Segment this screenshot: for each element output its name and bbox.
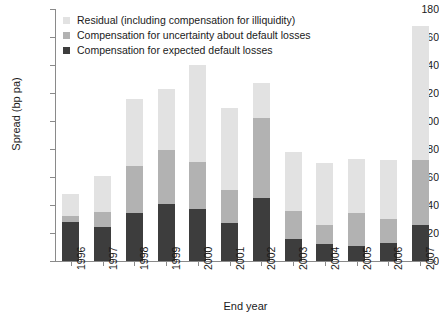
- x-axis-label: 2005: [362, 247, 373, 270]
- bar-segment: [253, 118, 270, 198]
- x-axis-label: 2000: [203, 247, 214, 270]
- bar-2007: [412, 9, 429, 261]
- x-axis-label: 2003: [298, 247, 309, 270]
- bar-2003: [285, 9, 302, 261]
- y-axis-title: Spread (bp pa): [10, 54, 22, 174]
- x-axis-tick: [325, 261, 326, 266]
- legend-swatch-expected: [63, 47, 70, 54]
- bar-segment: [221, 190, 238, 224]
- bar-segment: [221, 108, 238, 189]
- x-axis-label: 1997: [108, 247, 119, 270]
- x-axis-label: 1996: [76, 247, 87, 270]
- bar-segment: [126, 99, 143, 166]
- bar-segment: [348, 213, 365, 245]
- x-axis-title: End year: [55, 300, 436, 312]
- x-axis-tick: [230, 261, 231, 266]
- bar-segment: [158, 89, 175, 151]
- x-axis-tick: [166, 261, 167, 266]
- bar-segment: [285, 152, 302, 211]
- legend-swatch-uncertainty: [63, 32, 70, 39]
- x-axis-label: 2007: [425, 247, 436, 270]
- bar-segment: [94, 212, 111, 227]
- legend-label: Compensation for expected default losses: [77, 44, 273, 57]
- bar-segment: [316, 163, 333, 225]
- bar-2004: [316, 9, 333, 261]
- x-axis-tick: [357, 261, 358, 266]
- bar-segment: [189, 162, 206, 210]
- bar-segment: [348, 159, 365, 214]
- bar-segment: [412, 160, 429, 224]
- x-axis-tick: [388, 261, 389, 266]
- x-axis-tick: [198, 261, 199, 266]
- x-axis-label: 2004: [330, 247, 341, 270]
- x-axis-label: 1998: [139, 247, 150, 270]
- bar-segment: [126, 166, 143, 214]
- x-axis-tick: [261, 261, 262, 266]
- bar-2005: [348, 9, 365, 261]
- x-axis-label: 2002: [266, 247, 277, 270]
- bar-2006: [380, 9, 397, 261]
- bar-segment: [412, 26, 429, 160]
- x-axis-label: 2001: [235, 247, 246, 270]
- bar-segment: [316, 225, 333, 245]
- bar-segment: [158, 150, 175, 203]
- bar-segment: [380, 160, 397, 219]
- bar-segment: [189, 65, 206, 162]
- bar-segment: [94, 176, 111, 212]
- legend-swatch-residual: [63, 17, 70, 24]
- bar-segment: [380, 219, 397, 243]
- x-axis-tick: [103, 261, 104, 266]
- bar-segment: [62, 216, 79, 222]
- x-axis-tick: [134, 261, 135, 266]
- x-axis-tick: [293, 261, 294, 266]
- legend-label: Compensation for uncertainty about defau…: [77, 29, 310, 42]
- x-axis-tick: [71, 261, 72, 266]
- bar-segment: [253, 83, 270, 118]
- bar-segment: [285, 211, 302, 239]
- x-axis-label: 2006: [393, 247, 404, 270]
- bar-segment: [62, 194, 79, 216]
- x-axis-label: 1999: [171, 247, 182, 270]
- x-axis-tick: [420, 261, 421, 266]
- chart-container: Spread (bp pa) 020406080100120140160180 …: [0, 0, 439, 316]
- legend-label: Residual (including compensation for ill…: [77, 14, 295, 27]
